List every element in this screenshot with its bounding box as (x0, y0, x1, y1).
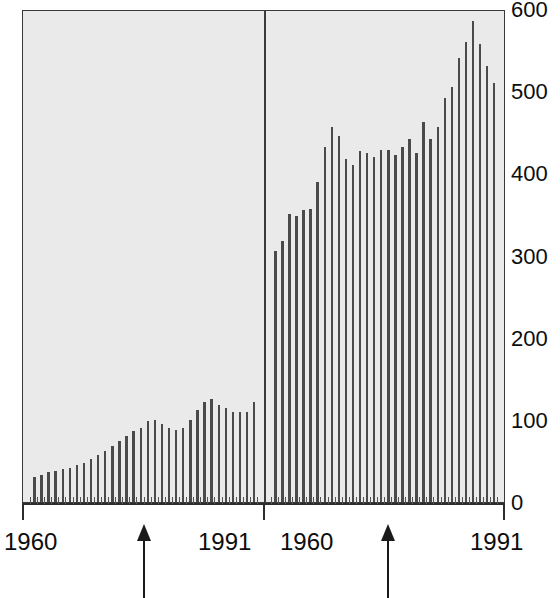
bar (422, 122, 424, 502)
bar (373, 157, 375, 502)
bar (132, 431, 134, 502)
x-tick-right-end (503, 503, 505, 520)
x-minor-tick (313, 497, 314, 504)
bar (316, 182, 318, 502)
bar (203, 402, 205, 502)
x-minor-tick (122, 497, 123, 504)
bar (345, 159, 347, 502)
x-minor-tick (87, 497, 88, 504)
bar (54, 471, 56, 502)
bar (352, 165, 354, 502)
x-minor-tick (200, 497, 201, 504)
bar (437, 127, 439, 503)
x-minor-tick (299, 497, 300, 504)
bar (246, 412, 248, 502)
bar (338, 136, 340, 502)
bar (458, 58, 460, 502)
x-minor-tick (271, 497, 272, 504)
x-minor-tick (37, 497, 38, 504)
bar (196, 410, 198, 502)
x-minor-tick (58, 497, 59, 504)
arrow-shaft (387, 536, 389, 598)
bar (33, 477, 35, 502)
x-minor-tick (115, 497, 116, 504)
x-minor-tick (497, 497, 498, 504)
bar (147, 421, 149, 502)
x-minor-tick (320, 497, 321, 504)
x-minor-tick (476, 497, 477, 504)
right-panel (264, 11, 504, 502)
x-minor-tick (328, 497, 329, 504)
x-minor-tick (455, 497, 456, 504)
bar (62, 469, 64, 502)
bar (253, 402, 255, 502)
bar (479, 44, 481, 502)
x-minor-tick (412, 497, 413, 504)
bar (182, 428, 184, 502)
bar (281, 241, 283, 502)
bar (295, 216, 297, 502)
arrow-shaft (143, 536, 145, 598)
x-minor-tick (30, 497, 31, 504)
bar (429, 139, 431, 502)
bar (104, 451, 106, 502)
bar (288, 214, 290, 502)
right-panel-bars (264, 11, 504, 502)
x-minor-tick (426, 497, 427, 504)
plot-area (22, 10, 505, 503)
bar (394, 155, 396, 502)
x-minor-tick (285, 497, 286, 504)
x-minor-tick (377, 497, 378, 504)
bar (493, 83, 495, 502)
x-minor-tick (469, 497, 470, 504)
x-minor-tick (236, 497, 237, 504)
bar (40, 475, 42, 502)
x-tick-left-start (22, 503, 24, 520)
bar (309, 209, 311, 502)
y-tick-label: 500 (511, 81, 548, 103)
chart-figure: 1960 1991 1960 1991 6005004003002001000 (0, 0, 560, 598)
bar (76, 465, 78, 502)
bar (140, 428, 142, 502)
x-minor-tick (398, 497, 399, 504)
bar (324, 147, 326, 502)
x-minor-tick (65, 497, 66, 504)
x-minor-tick (214, 497, 215, 504)
x-tick-center (263, 503, 265, 520)
bar (408, 139, 410, 502)
bar (387, 150, 389, 503)
x-minor-tick (193, 497, 194, 504)
y-tick-label: 0 (511, 492, 523, 514)
left-panel-bars (23, 11, 264, 502)
panel-divider (264, 11, 266, 502)
x-minor-tick (391, 497, 392, 504)
bar (69, 468, 71, 503)
x-minor-tick (433, 497, 434, 504)
bar (401, 147, 403, 502)
x-minor-tick (158, 497, 159, 504)
left-panel (23, 11, 264, 502)
x-minor-tick (108, 497, 109, 504)
bar (218, 405, 220, 502)
x-minor-tick (101, 497, 102, 504)
x-minor-tick (44, 497, 45, 504)
x-minor-tick (483, 497, 484, 504)
x-minor-tick (80, 497, 81, 504)
bar (97, 455, 99, 502)
x-minor-tick (462, 497, 463, 504)
x-minor-tick (292, 497, 293, 504)
bar (359, 151, 361, 502)
x-minor-tick (384, 497, 385, 504)
bar (415, 153, 417, 502)
x-minor-tick (129, 497, 130, 504)
x-minor-tick (179, 497, 180, 504)
bar (239, 412, 241, 502)
left-panel-arrow (134, 524, 154, 598)
x-minor-tick (342, 497, 343, 504)
x-minor-tick (229, 497, 230, 504)
bar (380, 150, 382, 502)
x-minor-tick (278, 497, 279, 504)
x-minor-tick (186, 497, 187, 504)
x-minor-tick (136, 497, 137, 504)
x-minor-tick (250, 497, 251, 504)
